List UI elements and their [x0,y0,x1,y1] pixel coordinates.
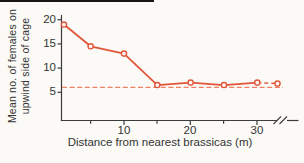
y-tick-label-5: 5 [36,85,56,98]
data-point-marker-7 [275,81,280,86]
data-point-marker-2 [121,51,126,56]
y-axis-label: Mean no. of females on upwind side of ca… [6,1,32,131]
data-point-marker-6 [255,80,260,85]
data-point-marker-0 [61,22,66,27]
x-axis-label: Distance from nearest brassicas (m) [40,136,280,148]
axes [58,15,299,125]
series-line [64,25,257,86]
y-tick-label-10: 10 [36,61,56,74]
y-tick-label-20: 20 [36,13,56,26]
data-point-marker-5 [221,82,226,87]
data-series-layer [61,22,283,88]
y-axis-label-line1: Mean no. of females on [6,1,19,131]
figure: Mean no. of females on upwind side of ca… [0,0,304,163]
y-tick-label-15: 15 [36,37,56,50]
data-point-marker-3 [155,82,160,87]
y-axis-label-line2: upwind side of cage [19,1,32,131]
data-point-marker-4 [188,80,193,85]
data-point-marker-1 [88,44,93,49]
